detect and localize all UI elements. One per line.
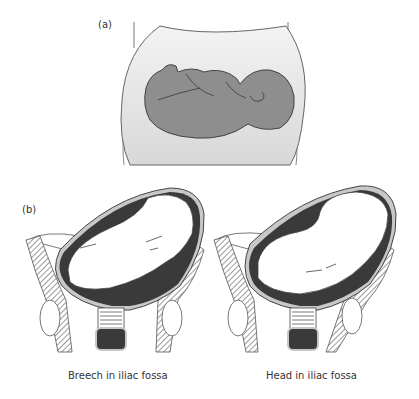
panel-a-illustration xyxy=(121,22,305,165)
pelvis-breech-illustration xyxy=(26,188,204,352)
caption-breech: Breech in iliac fossa xyxy=(68,370,168,381)
panel-a-label: (a) xyxy=(98,19,112,30)
pelvis-head-illustration xyxy=(214,186,396,352)
caption-head: Head in iliac fossa xyxy=(266,370,357,381)
panel-b-label: (b) xyxy=(22,204,36,215)
diagram-canvas xyxy=(0,0,419,399)
fetus-shape xyxy=(145,65,295,139)
